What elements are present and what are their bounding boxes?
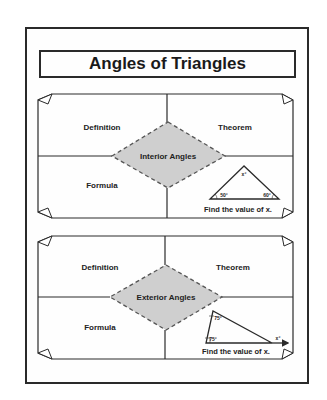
corner-fold-icon <box>38 208 52 218</box>
corner-fold-icon <box>282 208 293 218</box>
corner-fold-icon <box>38 94 52 104</box>
panel-interior-angles: Interior Angles Definition Theorem Formu… <box>38 94 293 218</box>
angle-label-bottom-left: 75° <box>209 336 217 342</box>
corner-fold-icon <box>38 349 52 359</box>
corner-fold-icon <box>38 236 52 246</box>
corner-fold-icon <box>282 349 293 359</box>
quadrant-formula: Formula <box>86 181 118 190</box>
corner-fold-icon <box>282 236 293 246</box>
find-x-caption: Find the value of x. <box>204 205 272 214</box>
corner-fold-icon <box>282 94 293 104</box>
panel-exterior-angles: Exterior Angles Definition Theorem Formu… <box>38 236 293 359</box>
four-square-organizers: Interior Angles Definition Theorem Formu… <box>0 0 327 400</box>
quadrant-definition: Definition <box>84 123 121 132</box>
exterior-triangle-diagram: 75° 75° x° <box>205 311 288 343</box>
quadrant-formula: Formula <box>84 323 116 332</box>
center-label: Interior Angles <box>140 152 197 161</box>
angle-label-top: 75° <box>214 315 222 321</box>
angle-label-right: 60° <box>263 192 271 198</box>
interior-triangle-diagram: x° 50° 60° <box>210 166 279 199</box>
center-label: Exterior Angles <box>137 293 196 302</box>
angle-label-left: 50° <box>220 192 228 198</box>
quadrant-theorem: Theorem <box>216 263 250 272</box>
find-x-caption: Find the value of x. <box>202 347 270 356</box>
angle-label-exterior: x° <box>276 335 281 341</box>
quadrant-definition: Definition <box>82 263 119 272</box>
angle-label-top: x° <box>242 171 247 177</box>
quadrant-theorem: Theorem <box>218 123 252 132</box>
